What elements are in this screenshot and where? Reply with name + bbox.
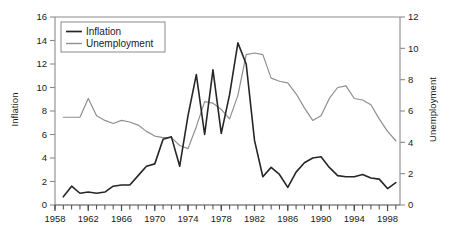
y-axis-left-tick-label: 0 bbox=[42, 199, 47, 210]
x-axis-tick-label: 1974 bbox=[177, 213, 198, 224]
y-axis-right-title: Unemployment bbox=[427, 65, 438, 155]
y-axis-left-tick-label: 4 bbox=[42, 152, 47, 163]
series-line-unemployment bbox=[63, 53, 396, 149]
x-axis-tick-label: 1982 bbox=[244, 213, 265, 224]
x-axis-tick-label: 1966 bbox=[111, 213, 132, 224]
y-axis-right-tick-label: 8 bbox=[408, 74, 413, 85]
chart-figure: 0246810121416 024681012 1958196219661970… bbox=[0, 0, 455, 247]
x-axis-tick-label: 1978 bbox=[211, 213, 232, 224]
x-axis-tick-label: 1970 bbox=[144, 213, 165, 224]
x-axis-tick-label: 1958 bbox=[44, 213, 65, 224]
x-axis-tick-label: 1990 bbox=[310, 213, 331, 224]
y-axis-left-title: Inflation bbox=[9, 75, 20, 145]
y-axis-left-tick-label: 2 bbox=[42, 176, 47, 187]
y-axis-left-tick-label: 14 bbox=[36, 35, 47, 46]
y-axis-right-tick-label: 10 bbox=[408, 43, 419, 54]
y-axis-right-tick-label: 6 bbox=[408, 105, 413, 116]
y-axis-left-ticks: 0246810121416 bbox=[36, 11, 55, 210]
y-axis-left-tick-label: 10 bbox=[36, 82, 47, 93]
series-line-inflation bbox=[63, 43, 396, 197]
y-axis-right-tick-label: 0 bbox=[408, 199, 413, 210]
legend-label-inflation: Inflation bbox=[86, 26, 121, 37]
x-axis-tick-label: 1998 bbox=[377, 213, 398, 224]
x-axis-major-ticks: 1958196219661970197419781982198619901994… bbox=[44, 205, 398, 224]
y-axis-right-ticks: 024681012 bbox=[400, 11, 419, 210]
y-axis-right-tick-label: 4 bbox=[408, 137, 413, 148]
x-axis-tick-label: 1986 bbox=[277, 213, 298, 224]
y-axis-left-tick-label: 8 bbox=[42, 105, 47, 116]
y-axis-left-tick-label: 12 bbox=[36, 58, 47, 69]
y-axis-left-tick-label: 6 bbox=[42, 129, 47, 140]
x-axis-minor-ticks bbox=[55, 205, 396, 210]
chart-legend: Inflation Unemployment bbox=[61, 22, 165, 52]
dual-axis-line-chart: 0246810121416 024681012 1958196219661970… bbox=[0, 0, 455, 247]
y-axis-left-tick-label: 16 bbox=[36, 11, 47, 22]
x-axis-tick-label: 1994 bbox=[344, 213, 365, 224]
x-axis-tick-label: 1962 bbox=[78, 213, 99, 224]
series-layer bbox=[63, 43, 396, 197]
y-axis-right-tick-label: 12 bbox=[408, 11, 419, 22]
legend-label-unemployment: Unemployment bbox=[86, 38, 153, 49]
y-axis-right-tick-label: 2 bbox=[408, 168, 413, 179]
